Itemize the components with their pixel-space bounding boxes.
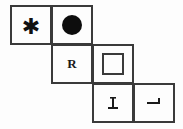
puzzle-canvas: ✱ R xyxy=(0,0,183,129)
puzzle-cell-r3c4[interactable] xyxy=(133,83,175,123)
filled-circle-icon xyxy=(62,15,82,35)
rotated-l-icon xyxy=(147,98,161,108)
puzzle-cell-r1c2[interactable] xyxy=(51,5,93,45)
hollow-square-icon xyxy=(102,53,124,75)
letter-r-label: R xyxy=(67,56,76,72)
puzzle-cell-r2c3[interactable] xyxy=(92,44,134,84)
puzzle-cell-r2c2[interactable]: R xyxy=(51,44,93,84)
asterisk-icon: ✱ xyxy=(22,16,40,38)
puzzle-cell-r1c1[interactable]: ✱ xyxy=(10,5,52,45)
rotated-t-icon xyxy=(107,97,119,110)
puzzle-cell-r3c3[interactable] xyxy=(92,83,134,123)
